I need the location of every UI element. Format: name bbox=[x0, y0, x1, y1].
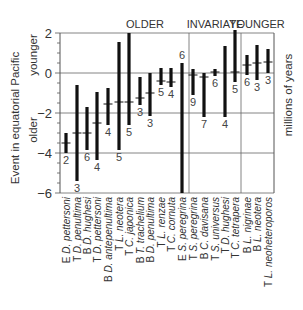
range-bar-line bbox=[266, 49, 269, 73]
sample-count-label: 4 bbox=[94, 161, 100, 173]
range-bar: 3 bbox=[253, 45, 262, 93]
range-bar: 5 bbox=[115, 42, 124, 163]
genus: C. bbox=[166, 230, 177, 243]
y-axis-title: Event in equatorial Pacific bbox=[9, 52, 21, 185]
chart-container: 20−2−4−6 OLDERINVARIATEYOUNGER 236445533… bbox=[0, 0, 303, 310]
x-category-label: T L. neoheteroporos bbox=[263, 197, 274, 287]
range-bar-line bbox=[95, 92, 98, 160]
sample-count-label: 5 bbox=[158, 86, 164, 98]
event-type: T bbox=[230, 250, 241, 259]
range-bar: 3 bbox=[264, 49, 273, 86]
species: davisana bbox=[199, 197, 210, 237]
x-category-label: B D. penultima bbox=[145, 197, 156, 263]
y-tick-label: 2 bbox=[45, 26, 52, 41]
range-bar: 6 bbox=[83, 107, 92, 163]
range-bar: 7 bbox=[200, 73, 209, 130]
species: pettersoni bbox=[92, 196, 103, 242]
event-type: B bbox=[199, 250, 210, 259]
genus: D. bbox=[92, 241, 103, 254]
sample-count-label: 9 bbox=[190, 96, 196, 108]
x-category-label: B D. antepenultima bbox=[103, 197, 114, 282]
genus: D. bbox=[145, 240, 156, 253]
range-bar-line bbox=[117, 42, 120, 150]
species: neotera bbox=[252, 197, 263, 231]
genus: C. bbox=[230, 237, 241, 250]
group-label-younger: YOUNGER bbox=[229, 18, 285, 30]
sample-count-label: 3 bbox=[254, 81, 260, 93]
event-type: T bbox=[92, 254, 103, 263]
sample-count-label: 5 bbox=[116, 151, 122, 163]
sample-count-label: 4 bbox=[222, 118, 228, 130]
genus: L. bbox=[252, 231, 263, 242]
event-type: B bbox=[252, 242, 263, 251]
range-bar-line bbox=[159, 68, 162, 85]
sample-count-label: 6 bbox=[244, 76, 250, 88]
sample-count-label: 3 bbox=[137, 106, 143, 118]
range-bar: 5 bbox=[125, 33, 134, 138]
genus: L. bbox=[263, 267, 274, 278]
species: antepenultima bbox=[103, 197, 114, 260]
x-category-label: T C. tetrapera bbox=[230, 197, 241, 259]
sample-count-label: 3 bbox=[74, 182, 80, 194]
group-labels: OLDERINVARIATEYOUNGER bbox=[126, 18, 285, 30]
species: pettersoni bbox=[61, 196, 72, 242]
event-type: E bbox=[177, 252, 188, 261]
y-tick-label: −2 bbox=[37, 106, 52, 121]
x-axis-labels: E D. pettersoniT D. penultimaB D. hughes… bbox=[61, 196, 274, 287]
sample-count-label: 2 bbox=[63, 154, 69, 166]
event-type: B bbox=[145, 253, 156, 262]
species: penultima bbox=[145, 197, 156, 242]
range-bar: 6 bbox=[243, 55, 252, 88]
y-tick-label: −4 bbox=[37, 146, 52, 161]
sample-count-label: 7 bbox=[201, 118, 207, 130]
species: tetrapera bbox=[230, 197, 241, 237]
range-bar-line bbox=[85, 107, 88, 150]
y-axis-right-title: millions of years bbox=[282, 54, 294, 137]
sample-count-label: 4 bbox=[168, 88, 174, 100]
range-bar-line bbox=[202, 73, 205, 117]
range-bar: 6 bbox=[211, 69, 220, 89]
event-type: T bbox=[124, 247, 135, 256]
genus: S. bbox=[177, 239, 188, 251]
range-bar: 2 bbox=[62, 133, 71, 166]
species: neoheteroporos bbox=[263, 197, 274, 267]
sample-count-label: 6 bbox=[179, 49, 185, 61]
range-bar: 3 bbox=[136, 77, 145, 118]
y-tick-label: 0 bbox=[45, 66, 52, 81]
grid-lines bbox=[60, 33, 274, 193]
event-type: E bbox=[61, 254, 72, 263]
x-category-label: T C. japonica bbox=[124, 197, 135, 256]
event-type: B bbox=[103, 273, 114, 282]
range-bar: 4 bbox=[93, 92, 102, 173]
y-tick-label: −6 bbox=[37, 186, 52, 201]
sample-count-label: 3 bbox=[147, 117, 153, 129]
sample-count-label: 6 bbox=[84, 151, 90, 163]
event-type: T bbox=[263, 278, 274, 287]
range-bar-line bbox=[233, 30, 236, 82]
range-bar: 9 bbox=[189, 69, 198, 108]
genus: C. bbox=[124, 234, 135, 247]
range-bar-line bbox=[148, 73, 151, 116]
range-bar-line bbox=[223, 46, 226, 117]
x-category-label: E S. peregrina bbox=[177, 197, 188, 261]
sample-count-label: 5 bbox=[232, 83, 238, 95]
species: peregrina bbox=[188, 197, 199, 241]
range-bar: 4 bbox=[222, 46, 228, 130]
range-bar: 5 bbox=[231, 30, 240, 95]
genus: D. bbox=[61, 241, 72, 254]
x-category-label: T D. pettersoni bbox=[92, 196, 103, 262]
x-category-label: T C. cornuta bbox=[166, 197, 177, 252]
event-type: T bbox=[188, 252, 199, 261]
group-label-older: OLDER bbox=[126, 18, 164, 30]
range-bar: 3 bbox=[73, 85, 82, 194]
range-bar-line bbox=[106, 88, 109, 125]
sample-count-label: 3 bbox=[265, 74, 271, 86]
range-bar-line bbox=[169, 68, 172, 87]
species: peregrina bbox=[177, 197, 188, 241]
species: japonica bbox=[124, 197, 135, 237]
sample-count-label: 6 bbox=[212, 77, 218, 89]
genus: D. bbox=[103, 260, 114, 273]
range-bar-line bbox=[127, 33, 130, 125]
x-category-label: B C. davisana bbox=[199, 197, 210, 260]
sample-count-label: 4 bbox=[105, 126, 111, 138]
